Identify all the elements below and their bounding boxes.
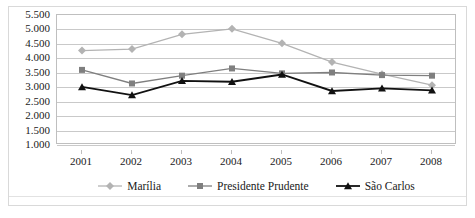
data-point-marker <box>178 30 186 38</box>
x-axis-tick-label: 2006 <box>320 155 342 167</box>
x-axis-tick-labels: 20012002200320042005200620072008 <box>56 150 456 168</box>
x-axis-tick-mark <box>181 150 182 154</box>
y-axis-tick-label: 3.500 <box>25 67 50 78</box>
legend-item-label: Marília <box>127 180 161 192</box>
gridline <box>57 145 455 146</box>
legend-divider <box>9 196 466 197</box>
series-presidente-prudente <box>79 65 435 86</box>
y-axis-tick-label: 5.000 <box>25 23 50 34</box>
x-axis-tick-mark <box>281 150 282 154</box>
x-axis-tick-label: 2004 <box>220 155 242 167</box>
x-axis-tick-label: 2003 <box>170 155 192 167</box>
data-point-marker <box>79 67 85 73</box>
y-axis-tick-label: 3.000 <box>25 81 50 92</box>
x-axis-tick-label: 2005 <box>270 155 292 167</box>
legend-swatch-diamond-icon <box>97 180 123 192</box>
series-marília <box>78 25 436 89</box>
legend-swatch-square-icon <box>187 180 213 192</box>
legend-item-label: Presidente Prudente <box>217 180 309 192</box>
data-point-marker <box>379 72 385 78</box>
y-axis-tick-label: 1.000 <box>25 139 50 150</box>
data-point-marker <box>278 39 286 47</box>
data-point-marker <box>329 69 335 75</box>
legend-swatch-triangle-icon <box>335 180 361 192</box>
legend-item-marília[interactable]: Marília <box>97 180 161 192</box>
data-point-marker <box>228 25 236 33</box>
x-axis-tick-label: 2001 <box>70 155 92 167</box>
legend-item-label: São Carlos <box>365 180 415 192</box>
y-axis-tick-label: 1.500 <box>25 125 50 136</box>
x-axis-tick-mark <box>431 150 432 154</box>
legend-item-são-carlos[interactable]: São Carlos <box>335 180 415 192</box>
data-point-marker <box>429 73 435 79</box>
x-axis-tick-mark <box>381 150 382 154</box>
data-point-marker <box>328 58 336 66</box>
x-axis-tick-label: 2008 <box>420 155 442 167</box>
data-point-marker <box>128 45 136 53</box>
x-axis-tick-mark <box>331 150 332 154</box>
legend-item-presidente-prudente[interactable]: Presidente Prudente <box>187 180 309 192</box>
series-layer <box>57 15 457 145</box>
x-axis-tick-mark <box>231 150 232 154</box>
y-axis-tick-label: 4.000 <box>25 52 50 63</box>
chart-legend: MaríliaPresidente PrudenteSão Carlos <box>56 176 456 196</box>
x-axis-tick-label: 2002 <box>120 155 142 167</box>
y-axis-tick-labels: 5.5005.0004.5004.0003.5003.0002.5002.000… <box>0 14 50 144</box>
data-point-marker <box>229 65 235 71</box>
data-point-marker <box>129 80 135 86</box>
x-axis-tick-mark <box>81 150 82 154</box>
y-axis-tick-label: 2.000 <box>25 110 50 121</box>
x-axis-tick-label: 2007 <box>370 155 392 167</box>
data-point-marker <box>197 183 203 189</box>
y-axis-tick-label: 4.500 <box>25 38 50 49</box>
plot-area <box>56 14 456 144</box>
data-point-marker <box>78 47 86 55</box>
y-axis-tick-label: 2.500 <box>25 96 50 107</box>
x-axis-tick-mark <box>131 150 132 154</box>
data-point-marker <box>106 182 114 190</box>
line-chart-figure: 5.5005.0004.5004.0003.5003.0002.5002.000… <box>0 0 475 218</box>
y-axis-tick-label: 5.500 <box>25 9 50 20</box>
